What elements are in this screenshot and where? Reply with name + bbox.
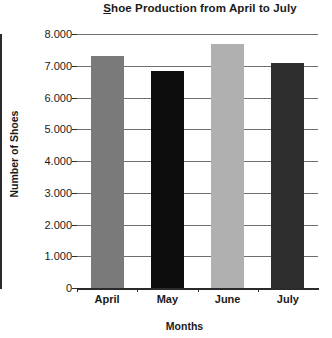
y-axis-tick-label: 2.000 [26, 219, 72, 231]
x-axis-title: Months [77, 320, 292, 332]
bar-july [271, 63, 304, 288]
y-axis-tick-label: 8.000 [26, 28, 72, 40]
x-axis-tick [198, 288, 199, 292]
gridline [77, 34, 318, 35]
y-axis-tick [72, 193, 77, 194]
y-axis-tick [72, 161, 77, 162]
x-axis-tick [258, 288, 259, 292]
y-axis-tick [72, 34, 77, 35]
y-axis-tick [72, 129, 77, 130]
bar-may [151, 71, 184, 288]
y-axis-tick-label: 7.000 [26, 60, 72, 72]
y-axis-tick [72, 98, 77, 99]
x-axis-tick-label: July [248, 293, 328, 305]
y-axis-tick [72, 256, 77, 257]
y-axis-title: Number of Shoes [8, 94, 20, 214]
y-axis-tick-label: 4.000 [26, 155, 72, 167]
y-axis-tick-label: 3.000 [26, 187, 72, 199]
x-axis-tick [77, 288, 78, 292]
y-axis-tick [72, 66, 77, 67]
y-axis-line [0, 34, 2, 289]
y-axis-tick-label: 0 [26, 282, 72, 294]
y-axis-tick-label: 6.000 [26, 92, 72, 104]
y-axis-tick-label: 1.000 [26, 250, 72, 262]
bar-june [211, 44, 244, 288]
x-axis-tick [137, 288, 138, 292]
chart-title-initial: S [103, 2, 111, 14]
chart-title-rest: hoe Production from April to July [111, 2, 297, 14]
chart-title: Shoe Production from April to July [76, 2, 324, 14]
plot-area [77, 34, 318, 288]
y-axis-tick-label: 5.000 [26, 123, 72, 135]
bar-april [91, 56, 124, 288]
y-axis-tick [72, 225, 77, 226]
y-axis-tick-labels: 8.0007.0006.0005.0004.0003.0002.0001.000… [22, 0, 72, 338]
